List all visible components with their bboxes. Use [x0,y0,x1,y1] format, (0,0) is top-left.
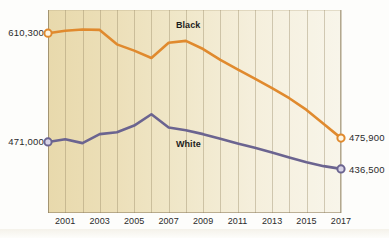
x-tick-label: 2017 [331,216,351,226]
scan-artifact-strip [0,229,389,238]
data-point-marker [337,135,344,142]
x-tick-label: 2001 [55,216,75,226]
line-chart: 610,300 471,000 475,900 436,500 Black Wh… [0,0,389,238]
x-tick-label: 2015 [296,216,316,226]
data-point-marker [44,30,51,37]
series-line-black [48,30,341,139]
x-tick-label: 2005 [124,216,144,226]
plot-area [48,10,341,213]
y-axis-label-black-start: 610,300 [0,27,44,38]
gridline [341,10,342,213]
end-value-label-black: 475,900 [349,132,385,143]
x-tick-label: 2007 [158,216,178,226]
data-point-marker [44,138,51,145]
x-tick-label: 2011 [228,216,248,226]
end-value-label-white: 436,500 [349,164,385,175]
series-lines [48,10,341,213]
x-tick-label: 2013 [262,216,282,226]
x-axis-ticks: 200120032005200720092011201320152017 [48,216,341,230]
series-annotation-black: Black [176,20,201,30]
x-tick-label: 2009 [193,216,213,226]
series-annotation-white: White [176,139,201,149]
y-axis-label-white-start: 471,000 [0,136,44,147]
data-point-marker [337,165,344,172]
x-tick-label: 2003 [89,216,109,226]
